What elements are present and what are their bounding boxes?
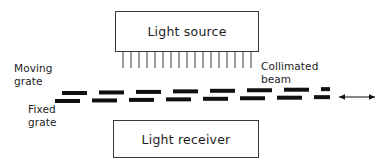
- grate-dash: [210, 89, 235, 93]
- grate-dash: [99, 90, 124, 94]
- grate-dash: [166, 97, 191, 101]
- motion-arrow-icon: [334, 88, 380, 106]
- grate-dash: [203, 97, 228, 101]
- grate-dash: [284, 88, 309, 92]
- fixed-grate: [55, 95, 330, 103]
- light-source-box: Light source: [115, 11, 259, 52]
- grate-dash: [129, 98, 154, 102]
- diagram-canvas: Light source Moving grate Fixed grate Co…: [0, 0, 384, 167]
- collimator-comb-icon: [115, 51, 259, 69]
- moving-grate: [62, 87, 330, 95]
- grate-dash: [62, 91, 87, 95]
- fixed-grate-label: Fixed grate: [28, 103, 57, 128]
- grate-dash: [240, 96, 265, 100]
- grate-dash: [173, 89, 198, 93]
- collimated-beam-label: Collimated beam: [261, 60, 318, 85]
- grate-dash: [55, 99, 80, 103]
- grate-marks: [55, 83, 330, 109]
- light-receiver-box: Light receiver: [113, 120, 259, 158]
- grate-dash: [321, 87, 330, 91]
- grate-dash: [314, 95, 330, 99]
- light-receiver-label: Light receiver: [142, 132, 231, 147]
- grate-dash: [277, 96, 302, 100]
- grate-dash: [136, 90, 161, 94]
- grate-dash: [92, 98, 117, 102]
- grate-dash: [247, 88, 272, 92]
- moving-grate-label: Moving grate: [14, 62, 53, 87]
- light-source-label: Light source: [147, 24, 226, 39]
